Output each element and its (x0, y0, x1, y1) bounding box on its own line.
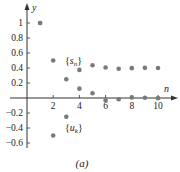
x-axis-arrow-icon (171, 96, 178, 101)
y-tick-label: 1 (18, 18, 23, 28)
x-axis-label: n (164, 83, 169, 94)
y-tick-label: 0.8 (11, 33, 23, 43)
scatter-chart: 24681010.80.60.40.2−0.2−0.4−0.6 yn{sn}{u… (0, 0, 180, 172)
y-tick-label: −0.2 (6, 108, 23, 118)
point-s-n (103, 65, 108, 70)
y-tick-label: −0.4 (6, 123, 23, 133)
series-label-u-k: {uk} (65, 122, 83, 135)
point-u-k (90, 91, 95, 96)
y-tick-label: 0.6 (11, 48, 23, 58)
point-s-n (90, 63, 95, 68)
point-s-n (77, 68, 82, 73)
figure-caption: (a) (76, 157, 89, 170)
point-u-k (130, 95, 135, 100)
point-s-n (116, 66, 121, 71)
point-u-k (143, 95, 148, 100)
y-tick-label: −0.6 (6, 138, 23, 148)
y-tick-label: 0.4 (11, 63, 23, 73)
point-s-n (130, 66, 135, 71)
labels: yn{sn}{uk}(a) (31, 2, 169, 170)
series-label-s-n: {sn} (65, 55, 82, 68)
point-u-k (64, 114, 69, 119)
data-points (38, 21, 161, 138)
x-tick-label: 10 (153, 101, 163, 111)
point-u-k (38, 21, 43, 26)
x-tick-label: 8 (129, 101, 134, 111)
point-u-k (77, 86, 82, 91)
x-tick-label: 4 (77, 101, 82, 111)
x-tick-label: 2 (51, 101, 56, 111)
point-u-k (116, 97, 121, 102)
axes (10, 3, 178, 148)
y-axis-label: y (31, 2, 37, 13)
point-u-k (51, 133, 56, 138)
y-axis-arrow-icon (25, 3, 30, 10)
point-s-n (156, 66, 161, 71)
ticks: 24681010.80.60.40.2−0.2−0.4−0.6 (6, 18, 163, 148)
point-s-n (51, 58, 56, 63)
point-u-k (156, 96, 161, 101)
y-tick-label: 0.2 (11, 78, 23, 88)
point-s-n (143, 66, 148, 71)
point-u-k (103, 98, 108, 103)
point-s-n (64, 77, 69, 82)
